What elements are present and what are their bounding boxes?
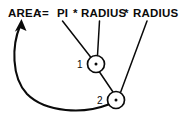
node-1[interactable]: 1 (77, 56, 105, 73)
expression-operator-2: * (124, 7, 129, 19)
edge-radius1-to-node1 (98, 21, 100, 56)
expression-operand-pi: PI (57, 7, 68, 19)
edge-radius2-to-node2 (121, 21, 148, 93)
expression-assign-operator: := (38, 7, 49, 19)
node-2-label: 2 (97, 95, 103, 106)
diagram-canvas: AREA := PI * RADIUS * RADIUS 1 (0, 0, 182, 123)
node-2-operator-dot-icon (115, 99, 118, 102)
expression-dag-diagram: AREA := PI * RADIUS * RADIUS 1 (0, 0, 182, 123)
expression-line: AREA := PI * RADIUS * RADIUS (8, 7, 178, 19)
node-1-label: 1 (77, 59, 83, 70)
node-2[interactable]: 2 (97, 92, 125, 109)
expression-operator-1: * (73, 7, 78, 19)
edge-pi-to-node1 (63, 21, 92, 58)
expression-operand-radius-2: RADIUS (133, 7, 178, 19)
expression-target: AREA (8, 7, 41, 19)
arrow-head-icon (15, 19, 27, 32)
edge-node1-to-node2 (100, 72, 114, 92)
node-1-operator-dot-icon (95, 63, 98, 66)
expression-operand-radius-1: RADIUS (81, 7, 126, 19)
